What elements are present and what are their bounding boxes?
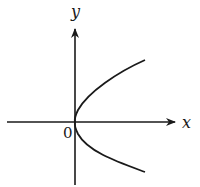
parabola-curve <box>75 60 145 172</box>
y-axis-label: y <box>70 2 81 21</box>
x-axis-label: x <box>182 113 191 132</box>
origin-label: 0 <box>63 124 73 142</box>
coordinate-diagram: y x 0 <box>0 0 200 187</box>
